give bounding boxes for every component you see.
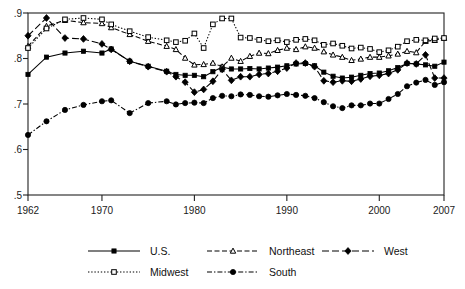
data-point-marker <box>192 100 197 105</box>
data-point-marker <box>239 67 243 71</box>
data-point-marker <box>432 36 437 41</box>
data-point-marker <box>229 67 233 71</box>
data-point-marker <box>386 96 391 101</box>
data-point-marker <box>321 100 326 105</box>
data-point-marker <box>99 99 104 104</box>
data-point-marker <box>414 38 419 43</box>
data-point-marker <box>340 105 345 110</box>
data-point-marker <box>164 99 169 104</box>
data-point-marker <box>109 22 114 27</box>
data-point-marker <box>174 40 179 45</box>
legend-label: U.S. <box>150 245 170 257</box>
data-point-marker <box>266 39 271 44</box>
data-point-marker <box>248 36 253 41</box>
x-tick-label: 1980 <box>183 205 206 216</box>
data-point-marker <box>322 70 326 74</box>
data-point-marker <box>248 66 252 70</box>
data-point-marker <box>44 119 49 124</box>
data-point-marker <box>81 16 86 21</box>
legend-label: South <box>269 266 297 278</box>
data-point-marker <box>423 77 428 82</box>
data-point-marker <box>127 111 132 116</box>
data-point-marker <box>367 101 372 106</box>
data-point-marker <box>358 103 363 108</box>
data-point-marker <box>173 102 178 107</box>
data-point-marker <box>275 38 280 43</box>
data-point-marker <box>423 63 427 67</box>
x-tick-label: 2007 <box>433 205 456 216</box>
data-point-marker <box>229 16 234 21</box>
data-point-marker <box>211 22 216 27</box>
data-point-marker <box>247 92 252 97</box>
data-point-marker <box>303 37 308 42</box>
data-point-marker <box>192 31 197 36</box>
data-point-marker <box>44 26 49 31</box>
data-point-marker <box>112 249 116 253</box>
data-point-marker <box>331 41 336 46</box>
y-tick-label: .6 <box>14 144 23 155</box>
data-point-marker <box>63 17 68 22</box>
data-point-marker <box>432 82 437 87</box>
data-point-marker <box>183 100 188 105</box>
x-tick-label: 1970 <box>91 205 114 216</box>
data-point-marker <box>44 55 48 59</box>
y-tick-label: .8 <box>14 53 23 64</box>
data-point-marker <box>284 91 289 96</box>
data-point-marker <box>331 74 335 78</box>
data-point-marker <box>127 29 132 34</box>
data-point-marker <box>405 39 410 44</box>
data-point-marker <box>349 46 354 51</box>
data-point-marker <box>257 94 262 99</box>
data-point-marker <box>112 270 117 275</box>
data-point-marker <box>220 16 225 21</box>
data-point-marker <box>312 38 317 43</box>
data-point-marker <box>63 51 67 55</box>
chart-figure: .5.6.7.8.9 196219701980199020002007 U.S.… <box>0 0 465 289</box>
data-point-marker <box>238 92 243 97</box>
data-point-marker <box>404 84 409 89</box>
data-point-marker <box>210 95 215 100</box>
data-point-marker <box>340 43 345 48</box>
data-point-marker <box>423 38 428 43</box>
data-point-marker <box>81 102 86 107</box>
data-point-marker <box>377 101 382 106</box>
data-point-marker <box>359 45 364 50</box>
data-point-marker <box>230 269 235 274</box>
data-point-marker <box>368 47 373 52</box>
data-point-marker <box>109 98 114 103</box>
y-tick-label: .7 <box>14 99 23 110</box>
data-point-marker <box>442 36 447 41</box>
data-point-marker <box>275 93 280 98</box>
legend-label: Northeast <box>269 245 315 257</box>
legend-label: Midwest <box>150 266 189 278</box>
data-point-marker <box>201 100 206 105</box>
data-point-marker <box>303 93 308 98</box>
data-point-marker <box>433 64 437 68</box>
data-point-marker <box>183 73 187 77</box>
data-point-marker <box>285 40 290 45</box>
data-point-marker <box>202 75 206 79</box>
data-point-marker <box>229 94 234 99</box>
data-point-marker <box>183 38 188 43</box>
y-tick-label: .5 <box>14 190 23 201</box>
data-point-marker <box>386 48 391 53</box>
data-point-marker <box>414 80 419 85</box>
data-point-marker <box>26 72 30 76</box>
data-point-marker <box>26 46 31 51</box>
data-point-marker <box>211 70 215 74</box>
data-point-marker <box>192 73 196 77</box>
data-point-marker <box>201 46 206 51</box>
x-tick-label: 1990 <box>276 205 299 216</box>
x-tick-label: 1962 <box>17 205 40 216</box>
data-point-marker <box>330 104 335 109</box>
data-point-marker <box>257 38 262 43</box>
data-point-marker <box>81 49 85 53</box>
data-point-marker <box>100 51 104 55</box>
data-point-marker <box>146 100 151 105</box>
data-point-marker <box>220 93 225 98</box>
data-point-marker <box>442 60 446 64</box>
data-point-marker <box>266 94 271 99</box>
data-point-marker <box>377 50 382 55</box>
y-tick-label: .9 <box>14 8 23 19</box>
data-point-marker <box>164 38 169 43</box>
